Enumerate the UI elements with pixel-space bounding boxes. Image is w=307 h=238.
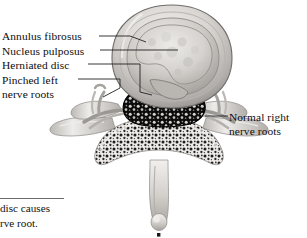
figure-marker-clipped (157, 233, 160, 237)
label-normal-line1: Normal right (229, 110, 289, 124)
figure-caption-clipped: disc causes rve root. (0, 201, 50, 230)
label-nucleus-pulposus: Nucleus pulposus (2, 44, 84, 58)
leader-pinched (78, 79, 120, 97)
intervertebral-disc (110, 5, 234, 113)
label-pinched-left-nerve-roots: Pinched left nerve roots (2, 73, 58, 102)
spinous-process (150, 160, 169, 237)
label-pinched-line2: nerve roots (2, 87, 58, 101)
caption-line2: rve root. (0, 216, 50, 231)
label-annulus-fibrosus: Annulus fibrosus (2, 29, 82, 43)
label-normal-right-nerve-roots: Normal right nerve roots (229, 110, 289, 139)
label-normal-line2: nerve roots (229, 124, 289, 138)
caption-line1: disc causes (0, 201, 50, 216)
label-herniated-disc: Herniated disc (2, 58, 70, 72)
caption-rule (0, 198, 64, 199)
label-pinched-line1: Pinched left (2, 73, 58, 87)
